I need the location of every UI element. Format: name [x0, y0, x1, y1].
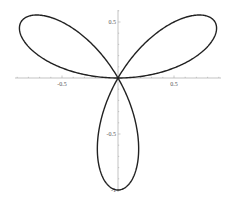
y-tick-label: 0.5 — [109, 19, 117, 25]
y-tick-label: -0.5 — [107, 131, 117, 137]
x-tick-label: -0.5 — [57, 81, 67, 87]
y-axis: 0.5-0.5-1 — [107, 10, 121, 193]
x-tick-label: 0.5 — [170, 81, 178, 87]
polar-rose-chart: -0.50.5 0.5-0.5-1 — [0, 0, 229, 199]
